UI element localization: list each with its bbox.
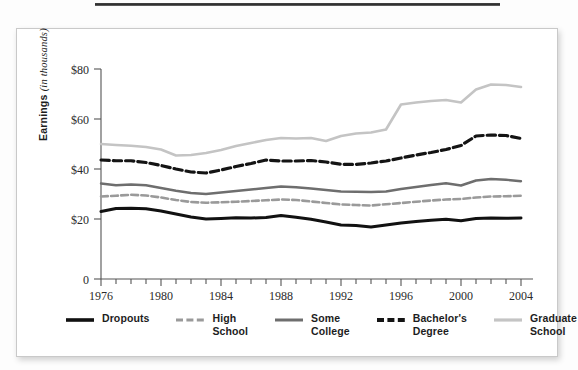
legend-swatch-icon — [274, 313, 304, 327]
y-tick-label: $60 — [71, 113, 89, 127]
legend-item[interactable]: Bachelor's Degree — [376, 312, 467, 356]
legend-item[interactable]: High School — [175, 312, 248, 356]
legend-label: Some College — [311, 312, 350, 337]
legend-item[interactable]: Some College — [274, 312, 350, 356]
chart-legend: DropoutsHigh SchoolSome CollegeBachelor'… — [17, 312, 557, 356]
legend-item[interactable]: Dropouts — [65, 312, 149, 356]
x-tick-label: 1996 — [389, 289, 413, 303]
x-tick-label: 2004 — [509, 289, 533, 303]
y-tick-label: $80 — [71, 63, 89, 77]
legend-swatch-icon — [175, 313, 205, 327]
x-tick-label: 1984 — [209, 289, 233, 303]
series-line — [101, 208, 521, 227]
chart-svg: $80$60$40$200197619801984198819921996200… — [17, 29, 557, 314]
legend-label: High School — [212, 312, 248, 337]
series-line — [101, 179, 521, 194]
series-line — [101, 195, 521, 206]
x-tick-label: 1980 — [149, 289, 173, 303]
x-tick-label: 1976 — [89, 289, 113, 303]
legend-label: Bachelor's Degree — [413, 312, 467, 337]
y-tick-label: $20 — [71, 213, 89, 227]
chart-panel: Earnings (in thousands) $80$60$40$200197… — [16, 28, 558, 357]
series-line — [101, 135, 521, 173]
legend-label: Graduate School — [530, 312, 577, 337]
figure-root: Earnings (in thousands) $80$60$40$200197… — [0, 0, 578, 370]
y-tick-label: $40 — [71, 163, 89, 177]
legend-swatch-icon — [65, 313, 95, 327]
header-rule — [95, 3, 500, 6]
legend-label: Dropouts — [102, 312, 149, 325]
x-tick-label: 2000 — [449, 289, 473, 303]
legend-item[interactable]: Graduate School — [493, 312, 577, 356]
x-tick-label: 1988 — [269, 289, 293, 303]
legend-swatch-icon — [376, 313, 406, 327]
y-tick-label: 0 — [83, 273, 89, 287]
x-tick-label: 1992 — [329, 289, 353, 303]
plot-area: Earnings (in thousands) $80$60$40$200197… — [17, 29, 557, 356]
legend-swatch-icon — [493, 313, 523, 327]
series-group — [101, 85, 521, 228]
